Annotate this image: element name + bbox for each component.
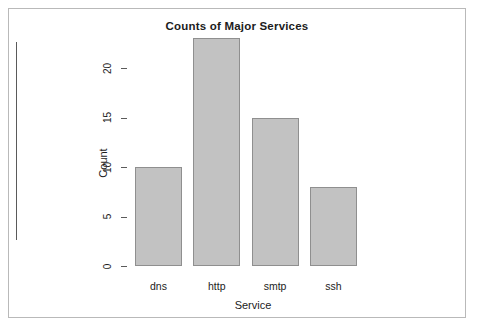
y-axis-tick (121, 217, 127, 218)
y-axis-tick-label-text: 20 (103, 62, 114, 73)
y-axis-tick (121, 68, 127, 69)
bar-dns (135, 167, 182, 266)
y-axis-tick-label: 5 (97, 210, 119, 224)
x-axis-tick-label-ssh: ssh (310, 280, 357, 292)
y-axis-tick (121, 167, 127, 168)
bar-http (193, 38, 240, 266)
y-axis-tick-label-text: 10 (103, 161, 114, 172)
y-axis-tick-label: 20 (97, 61, 119, 75)
y-axis-tick-label: 0 (97, 259, 119, 273)
y-axis-line (16, 42, 17, 240)
y-axis-tick-label-text: 0 (103, 263, 114, 269)
bar-smtp (252, 118, 299, 267)
y-axis-tick-label: 10 (97, 160, 119, 174)
x-axis-tick-label-http: http (193, 280, 240, 292)
y-axis-tick-label-text: 5 (103, 214, 114, 220)
screenshot-root: Counts of Major Services Count 05101520 … (0, 0, 479, 329)
bar-ssh (310, 187, 357, 266)
y-axis-tick-label-text: 15 (103, 112, 114, 123)
x-axis-tick-label-smtp: smtp (252, 280, 299, 292)
y-axis-tick (121, 266, 127, 267)
y-axis-tick (121, 118, 127, 119)
y-axis-tick-label: 15 (97, 111, 119, 125)
bar-chart-figure: Counts of Major Services Count 05101520 … (8, 8, 466, 318)
x-axis-title: Service (127, 299, 379, 311)
chart-title: Counts of Major Services (8, 20, 466, 32)
x-axis-tick-label-dns: dns (135, 280, 182, 292)
